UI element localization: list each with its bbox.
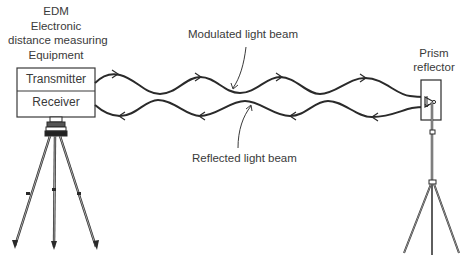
prism-label-line: reflector — [410, 60, 458, 74]
edm-diagram: EDM Electronic distance measuring Equipm… — [0, 0, 469, 259]
edm-title-line: Equipment — [8, 48, 104, 63]
prism-label-line: Prism — [410, 46, 458, 60]
modulated-beam-label: Modulated light beam — [188, 27, 298, 41]
reflected-beam-label: Reflected light beam — [192, 151, 297, 165]
reflected-light-beam — [95, 100, 425, 121]
edm-title-line: distance measuring — [8, 33, 104, 48]
reflected-leader-line — [238, 106, 251, 148]
prism-reflector-label: Prism reflector — [410, 46, 458, 74]
edm-title-line: EDM — [8, 4, 104, 19]
modulated-leader-line — [233, 47, 246, 88]
edm-tripod — [12, 136, 99, 250]
modulated-light-beam — [95, 70, 425, 97]
edm-tripod-head — [45, 117, 67, 136]
edm-title-line: Electronic — [8, 19, 104, 34]
prism-tripod — [404, 102, 459, 255]
transmitter-label: Transmitter — [17, 72, 95, 86]
edm-title: EDM Electronic distance measuring Equipm… — [8, 4, 104, 62]
receiver-label: Receiver — [17, 95, 95, 109]
